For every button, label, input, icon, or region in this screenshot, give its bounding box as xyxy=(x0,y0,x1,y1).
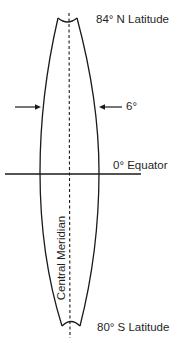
central-meridian-line xyxy=(69,13,70,338)
zone-gore-shape xyxy=(0,0,186,343)
left-arrowhead-icon xyxy=(35,104,41,109)
zone-width-label: 6° xyxy=(126,101,137,113)
zone-right-boundary xyxy=(77,18,99,326)
south-cap-arc xyxy=(62,322,80,327)
equator-label: 0° Equator xyxy=(113,160,167,172)
north-latitude-label: 84° N Latitude xyxy=(96,14,169,26)
central-meridian-label: Central Meridian xyxy=(56,216,68,300)
right-arrowhead-icon xyxy=(99,104,105,109)
utm-zone-diagram: 84° N Latitude 6° 0° Equator 80° S Latit… xyxy=(0,0,186,343)
south-latitude-label: 80° S Latitude xyxy=(97,322,169,334)
north-cap-arc xyxy=(58,18,77,22)
